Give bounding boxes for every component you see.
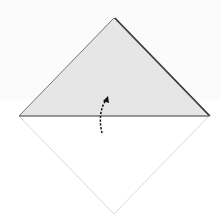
origami-diagram [0,0,221,221]
lower-half-outline [19,116,209,214]
folded-triangle [19,18,209,116]
